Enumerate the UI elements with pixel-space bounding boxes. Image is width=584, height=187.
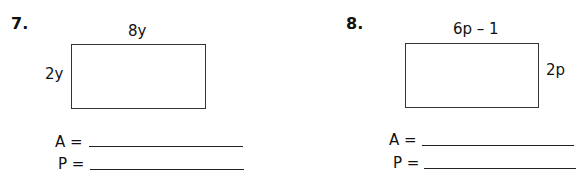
problem-number: 8.: [346, 14, 363, 33]
area-answer-line[interactable]: [89, 146, 243, 147]
rectangle-figure: [71, 44, 206, 109]
problem-number: 7.: [11, 14, 28, 33]
rectangle-figure: [405, 43, 539, 108]
rectangle-length-label: 8y: [128, 22, 146, 40]
perimeter-label: P =: [393, 154, 419, 172]
perimeter-answer-line[interactable]: [424, 168, 576, 169]
area-label: A =: [389, 131, 417, 149]
rectangle-width-label: 2y: [45, 65, 63, 83]
area-label: A =: [55, 133, 83, 151]
rectangle-width-label: 2p: [546, 61, 565, 79]
perimeter-label: P =: [58, 155, 84, 173]
area-answer-line[interactable]: [422, 145, 574, 146]
perimeter-answer-line[interactable]: [90, 169, 244, 170]
rectangle-length-label: 6p – 1: [453, 20, 499, 38]
